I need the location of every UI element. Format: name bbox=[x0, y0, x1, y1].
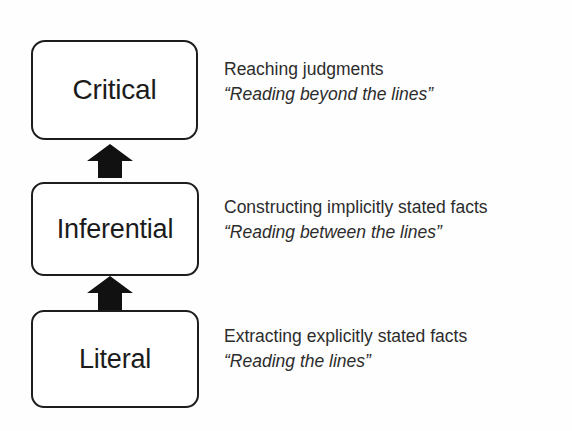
arrow-up-icon-inferential-to-critical bbox=[87, 144, 133, 178]
level-description-text-critical: Reaching judgments bbox=[224, 57, 560, 82]
level-box-critical[interactable]: Critical bbox=[31, 40, 198, 140]
level-box-literal[interactable]: Literal bbox=[31, 310, 199, 408]
level-label-literal: Literal bbox=[79, 346, 151, 373]
level-box-inferential[interactable]: Inferential bbox=[31, 182, 199, 276]
comprehension-levels-diagram: Critical Reaching judgments “Reading bey… bbox=[0, 0, 572, 431]
level-row-literal: Literal Extracting explicitly stated fac… bbox=[0, 310, 572, 408]
level-label-inferential: Inferential bbox=[57, 216, 173, 243]
level-row-critical: Critical Reaching judgments “Reading bey… bbox=[0, 40, 572, 140]
level-description-literal: Extracting explicitly stated facts “Read… bbox=[224, 324, 560, 374]
level-quote-inferential: “Reading between the lines” bbox=[224, 220, 560, 245]
level-quote-literal: “Reading the lines” bbox=[224, 349, 560, 374]
level-row-inferential: Inferential Constructing implicitly stat… bbox=[0, 182, 572, 276]
level-description-critical: Reaching judgments “Reading beyond the l… bbox=[224, 57, 560, 107]
level-quote-critical: “Reading beyond the lines” bbox=[224, 82, 560, 107]
level-description-inferential: Constructing implicitly stated facts “Re… bbox=[224, 195, 560, 245]
arrow-up-icon-literal-to-inferential bbox=[87, 276, 133, 310]
level-description-text-literal: Extracting explicitly stated facts bbox=[224, 324, 560, 349]
level-label-critical: Critical bbox=[73, 76, 157, 104]
level-description-text-inferential: Constructing implicitly stated facts bbox=[224, 195, 560, 220]
